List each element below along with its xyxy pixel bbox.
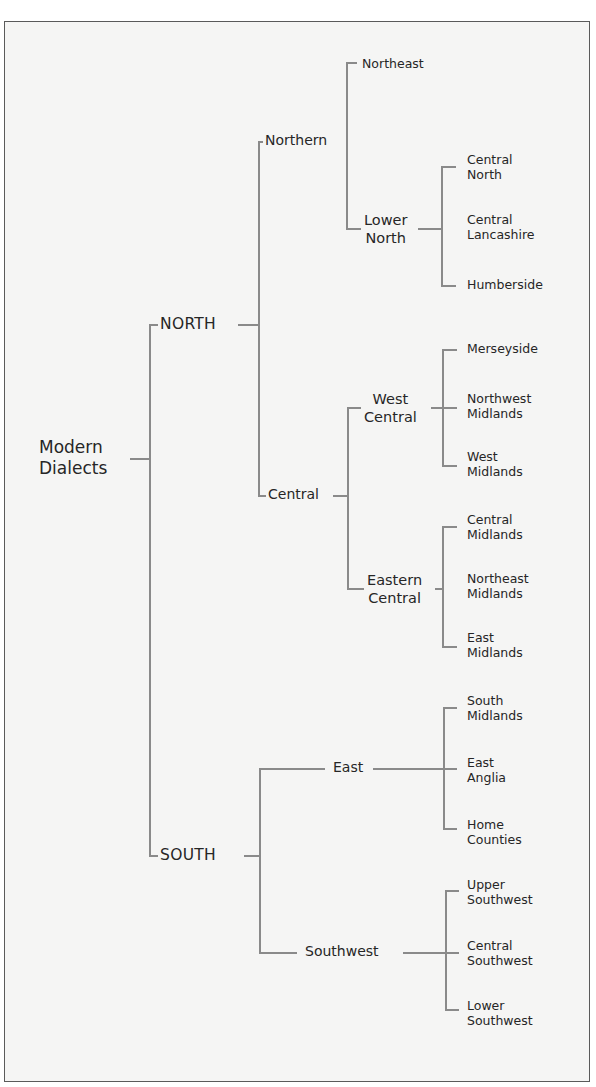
root-node-modern-dialects: Modern Dialects bbox=[39, 437, 107, 479]
leaf-northeast-midlands: Northeast Midlands bbox=[467, 571, 529, 601]
leaf-upper-southwest: Upper Southwest bbox=[467, 877, 533, 907]
leaf-central-southwest: Central Southwest bbox=[467, 938, 533, 968]
label-line: Southwest bbox=[467, 892, 533, 907]
label-line: South bbox=[467, 693, 523, 708]
label-line: East bbox=[467, 630, 523, 645]
label-line: Central bbox=[367, 589, 422, 607]
label-line: Midlands bbox=[467, 527, 523, 542]
label-line: East bbox=[467, 755, 506, 770]
leaf-home-counties: Home Counties bbox=[467, 817, 522, 847]
node-east: East bbox=[333, 760, 363, 775]
node-eastern-central: Eastern Central bbox=[367, 571, 422, 607]
label-line: Central bbox=[364, 408, 417, 426]
leaf-central-north: Central North bbox=[467, 152, 513, 182]
node-southwest: Southwest bbox=[305, 944, 379, 959]
node-lower-north: Lower North bbox=[364, 211, 407, 247]
label-line: Eastern bbox=[367, 571, 422, 589]
label-line: North bbox=[467, 167, 513, 182]
node-central: Central bbox=[268, 487, 319, 502]
label-line: Lower bbox=[467, 998, 533, 1013]
node-north: NORTH bbox=[160, 316, 216, 332]
label-line: Home bbox=[467, 817, 522, 832]
label-line: Anglia bbox=[467, 770, 506, 785]
label-line: Central bbox=[467, 152, 513, 167]
label-line: Midlands bbox=[467, 708, 523, 723]
root-label-line-2: Dialects bbox=[39, 458, 107, 479]
leaf-merseyside: Merseyside bbox=[467, 341, 538, 356]
label-line: Lower bbox=[364, 211, 407, 229]
label-line: Midlands bbox=[467, 464, 523, 479]
leaf-lower-southwest: Lower Southwest bbox=[467, 998, 533, 1028]
label-line: Humberside bbox=[467, 277, 543, 292]
label-line: West bbox=[364, 390, 417, 408]
leaf-south-midlands: South Midlands bbox=[467, 693, 523, 723]
leaf-central-lancashire: Central Lancashire bbox=[467, 212, 535, 242]
label-line: Midlands bbox=[467, 406, 531, 421]
label-line: Midlands bbox=[467, 586, 529, 601]
leaf-northwest-midlands: Northwest Midlands bbox=[467, 391, 531, 421]
node-west-central: West Central bbox=[364, 390, 417, 426]
label-line: Northwest bbox=[467, 391, 531, 406]
label-line: Central bbox=[467, 512, 523, 527]
label-line: Upper bbox=[467, 877, 533, 892]
root-label-line-1: Modern bbox=[39, 437, 107, 458]
label-line: Southwest bbox=[467, 953, 533, 968]
label-line: Midlands bbox=[467, 645, 523, 660]
label-line: Southwest bbox=[467, 1013, 533, 1028]
node-south: SOUTH bbox=[160, 847, 216, 863]
leaf-east-midlands: East Midlands bbox=[467, 630, 523, 660]
leaf-east-anglia: East Anglia bbox=[467, 755, 506, 785]
label-line: Lancashire bbox=[467, 227, 535, 242]
leaf-humberside: Humberside bbox=[467, 277, 543, 292]
label-line: West bbox=[467, 449, 523, 464]
label-line: Northeast bbox=[467, 571, 529, 586]
label-line: North bbox=[364, 229, 407, 247]
label-line: Central bbox=[467, 938, 533, 953]
node-northeast: Northeast bbox=[362, 56, 424, 71]
label-line: Merseyside bbox=[467, 341, 538, 356]
leaf-central-midlands: Central Midlands bbox=[467, 512, 523, 542]
node-northern: Northern bbox=[265, 133, 327, 148]
label-line: Counties bbox=[467, 832, 522, 847]
leaf-west-midlands: West Midlands bbox=[467, 449, 523, 479]
label-line: Central bbox=[467, 212, 535, 227]
